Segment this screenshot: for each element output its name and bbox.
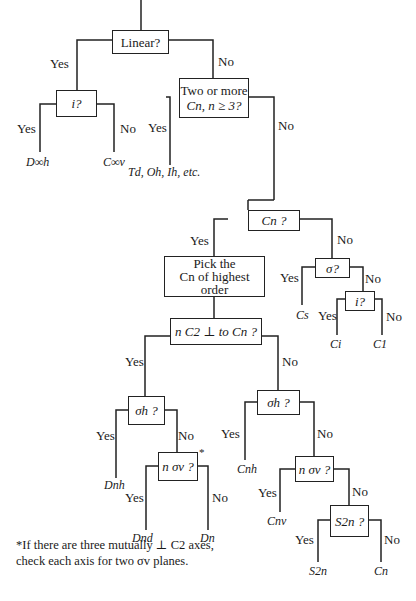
node-n-sigma-v-left-label: n σv ? [162,459,194,474]
edge-label-no: No [337,232,353,248]
node-nc2-label: n C2 ⊥ to Cn ? [175,324,257,339]
footnote-marker: * [199,446,205,458]
node-inversion-nonaxial: i? [345,291,375,311]
node-i1-label: i? [71,96,81,111]
node-s2n-label: S2n ? [335,514,364,529]
node-n-sigma-v-dihedral: n σv ? [158,452,198,481]
leaf-cs: Cs [296,308,309,323]
footnote-line-1: *If there are three mutually ⊥ C2 axes, [16,537,214,553]
edge-label-no: No [120,121,136,137]
node-sigma: σ? [315,258,350,278]
node-n-sigma-v-cyclic: n σv ? [295,456,334,482]
node-i2-label: i? [355,294,365,309]
leaf-dnh: Dnh [104,478,125,493]
edge-label-no: No [384,532,400,548]
leaf-c1: C1 [373,337,387,352]
node-n-sigma-v-right-label: n σv ? [299,462,331,477]
edge-label-yes: Yes [280,270,299,286]
edge-label-no: No [365,271,381,287]
edge-label-no: No [218,54,234,70]
edge-label-yes: Yes [221,426,240,442]
leaf-c-inf-v: C∞v [103,155,125,170]
node-cn-label: Cn ? [262,213,287,228]
leaf-cnh: Cnh [237,462,257,477]
edge-label-no: No [386,309,402,325]
edge-label-no: No [282,354,298,370]
node-two-or-more-cn: Two or more Cn, n ≥ 3? [179,78,249,118]
node-inversion-linear: i? [56,90,97,117]
leaf-d-inf-h: D∞h [26,155,49,170]
node-n-c2-perp: n C2 ⊥ to Cn ? [170,318,262,345]
leaf-ci: Ci [330,337,341,352]
edge-label-no: No [178,428,194,444]
node-linear: Linear? [112,30,169,54]
node-s2n: S2n ? [330,505,369,537]
node-pick-highest-cn: Pick the Cn of highest order [164,256,265,297]
edge-label-no: No [317,426,333,442]
footnote: *If there are three mutually ⊥ C2 axes, … [16,537,214,569]
edge-label-yes: Yes [295,532,314,548]
node-two-cn-line2: Cn, n ≥ 3? [187,98,242,113]
edge-label-yes: Yes [148,120,167,136]
edge-label-yes: Yes [258,485,277,501]
edge-label-yes: Yes [125,354,144,370]
node-linear-label: Linear? [121,35,161,50]
edge-label-no: No [352,484,368,500]
leaf-cubic-groups: Td, Oh, Ih, etc. [128,165,200,180]
node-sigma-h-dihedral: σh ? [128,396,165,425]
node-two-cn-line1: Two or more [181,83,248,98]
node-sigma-h-right-label: σh ? [267,395,290,410]
edge-label-yes: Yes [318,308,337,324]
edge-label-yes: Yes [125,490,144,506]
edge-label-yes: Yes [50,56,69,72]
edge-label-yes: Yes [96,428,115,444]
leaf-cnv: Cnv [267,514,286,529]
node-sigma-h-cyclic: σh ? [257,390,300,415]
edge-label-yes: Yes [17,121,36,137]
leaf-cn: Cn [374,564,388,579]
node-cn: Cn ? [248,210,300,231]
node-pick-line3: order [201,283,228,296]
node-sigma-h-left-label: σh ? [135,403,158,418]
edge-label-yes: Yes [190,233,209,249]
edge-label-no: No [278,118,294,134]
node-sigma-label: σ? [326,261,339,276]
edge-label-no: No [212,490,228,506]
leaf-s2n: S2n [309,564,327,579]
footnote-line-2: check each axis for two σv planes. [16,553,214,569]
